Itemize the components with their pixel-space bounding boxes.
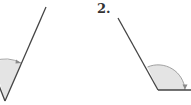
angle-1-arrowhead-icon [16,60,22,64]
angle-2-shaded-sector [148,65,186,90]
angle-diagram [0,0,191,105]
angle-2-ray-upper-left [118,18,158,90]
angle-figure-2 [118,18,191,90]
angle-1-ray-right [5,7,46,101]
figure-2-label: 2. [97,2,111,15]
angle-figure-1 [0,7,46,101]
